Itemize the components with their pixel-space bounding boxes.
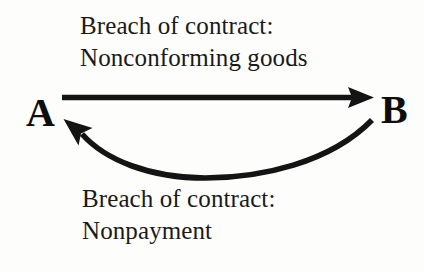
arrow-b-to-a-icon (64, 119, 373, 178)
arrow-b-to-a-shaft (82, 120, 372, 178)
edge-label-b-to-a-line2: Nonpayment (82, 215, 275, 247)
edge-label-b-to-a-line1: Breach of contract: (82, 183, 275, 215)
diagram-canvas: Breach of contract: Nonconforming goods … (0, 0, 424, 272)
edge-label-b-to-a: Breach of contract: Nonpayment (82, 183, 275, 247)
arrow-a-to-b-icon (62, 87, 374, 108)
